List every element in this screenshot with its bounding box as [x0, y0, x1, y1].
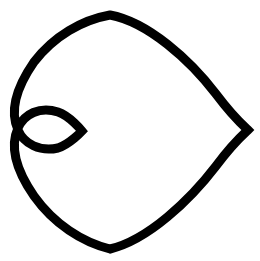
background-rect: [0, 0, 260, 261]
icon-canvas: [0, 0, 260, 261]
heart-outline-svg: [0, 0, 260, 261]
